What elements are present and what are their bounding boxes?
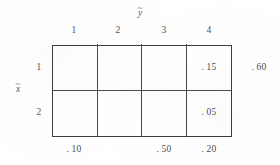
column-header-2: 2 <box>116 26 121 36</box>
row-variable-label: ~ x <box>16 85 20 95</box>
row-margin-row1: . 60 <box>251 63 266 73</box>
column-header-3: 3 <box>162 26 167 36</box>
cell-row2-col4: . 05 <box>201 108 216 118</box>
column-variable-label: ~ y <box>138 9 142 19</box>
row-variable-glyph: x <box>16 84 20 94</box>
column-margin-col1: . 10 <box>66 145 81 155</box>
column-margin-col3: . 50 <box>156 145 171 155</box>
row-header-2: 2 <box>37 108 42 118</box>
column-margin-col4: . 20 <box>201 145 216 155</box>
cell-row1-col4: . 15 <box>201 63 216 73</box>
column-header-4: 4 <box>207 26 212 36</box>
probability-table-grid <box>52 45 232 137</box>
figure-canvas: ~ y 1 2 3 4 ~ x 1 2 . 15 . 05 . 60 . 10 … <box>0 0 280 165</box>
column-variable-glyph: y <box>138 8 142 18</box>
grid-horizontal-line-1 <box>53 90 231 91</box>
column-header-1: 1 <box>72 26 77 36</box>
row-header-1: 1 <box>37 63 42 73</box>
